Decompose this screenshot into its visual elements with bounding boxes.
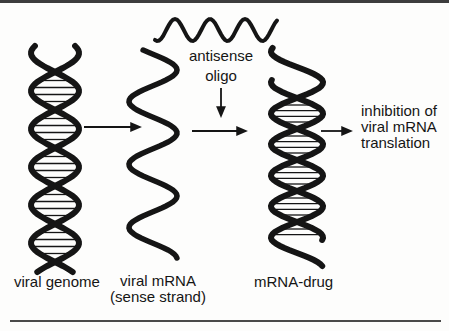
viral-genome-helix-icon	[31, 46, 79, 272]
outcome-label-line3: translation	[361, 135, 437, 151]
viral-genome-label: viral genome	[14, 273, 100, 290]
viral-mrna-label: viral mRNA (sense strand)	[99, 273, 217, 305]
antisense-oligo-label-line2: oligo	[156, 66, 286, 86]
mrna-drug-label: mRNA-drug	[254, 273, 333, 290]
antisense-oligo-label-line1: antisense	[156, 46, 286, 66]
antisense-mechanism-figure: antisense oligo inhibition of viral mRNA…	[0, 0, 449, 331]
outcome-label: inhibition of viral mRNA translation	[361, 103, 437, 151]
viral-mrna-label-name: viral mRNA	[99, 273, 217, 289]
outcome-label-line1: inhibition of	[361, 103, 437, 119]
antisense-oligo-wave-icon	[155, 19, 277, 41]
viral-mrna-label-qualifier: (sense strand)	[99, 289, 217, 305]
bottom-rule	[10, 320, 441, 322]
antisense-oligo-label: antisense oligo	[156, 46, 286, 86]
outcome-label-line2: viral mRNA	[361, 119, 437, 135]
